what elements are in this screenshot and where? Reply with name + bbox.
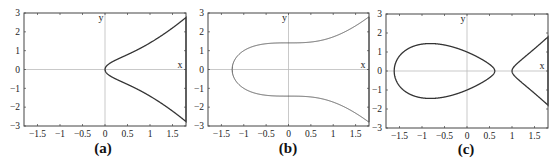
y-tick-label: 3 xyxy=(15,8,20,18)
x-axis-label: x xyxy=(178,59,183,70)
x-axis-label: x xyxy=(361,59,366,70)
y-tick-label: −3 xyxy=(372,123,382,133)
x-tick-label: −0.5 xyxy=(258,129,275,139)
y-tick-label: −2 xyxy=(194,102,204,112)
y-tick-label: 0 xyxy=(199,65,204,75)
y-tick-label: 3 xyxy=(199,8,204,18)
y-tick-label: −1 xyxy=(10,84,20,94)
x-tick-label: 1 xyxy=(510,131,515,141)
x-axis-label: x xyxy=(540,60,545,71)
y-tick-label: 2 xyxy=(15,27,20,37)
x-tick-label: −0.5 xyxy=(436,131,453,141)
x-tick-label: 1 xyxy=(331,129,336,139)
y-tick-label: 2 xyxy=(199,27,204,37)
y-tick-label: 3 xyxy=(377,9,382,19)
plot-panel-c: −1.5−1−0.500.511.5−3−2−10123xy xyxy=(372,9,548,141)
y-tick-label: −2 xyxy=(10,102,20,112)
y-tick-label: −3 xyxy=(194,121,204,131)
x-tick-label: −1.5 xyxy=(213,129,230,139)
x-tick-label: 0.5 xyxy=(484,131,496,141)
y-tick-label: −2 xyxy=(372,104,382,114)
y-axis-label: y xyxy=(99,12,104,23)
y-tick-label: 0 xyxy=(377,66,382,76)
caption-c: (c) xyxy=(436,141,496,158)
x-tick-label: 1.5 xyxy=(529,131,541,141)
x-tick-label: 0.5 xyxy=(305,129,317,139)
y-tick-label: −1 xyxy=(372,85,382,95)
y-tick-label: −3 xyxy=(10,121,20,131)
plot-panel-a: −1.5−1−0.500.511.5−3−2−10123xy xyxy=(10,8,186,139)
y-tick-label: −1 xyxy=(194,84,204,94)
y-tick-label: 1 xyxy=(199,46,204,56)
x-tick-label: 0 xyxy=(103,129,108,139)
x-tick-label: 1.5 xyxy=(167,129,179,139)
caption-a: (a) xyxy=(73,140,133,157)
plot-panel-b: −1.5−1−0.500.511.5−3−2−10123xy xyxy=(194,8,369,139)
x-tick-label: 0 xyxy=(465,131,470,141)
x-tick-label: −1 xyxy=(239,129,249,139)
y-tick-label: 2 xyxy=(377,28,382,38)
x-tick-label: 0 xyxy=(286,129,291,139)
y-tick-label: 1 xyxy=(15,46,20,56)
y-tick-label: 0 xyxy=(15,65,20,75)
x-tick-label: 1 xyxy=(148,129,153,139)
x-tick-label: −1.5 xyxy=(391,131,408,141)
y-tick-label: 1 xyxy=(377,47,382,57)
x-tick-label: −1.5 xyxy=(29,129,46,139)
x-tick-label: −1 xyxy=(417,131,427,141)
x-tick-label: −0.5 xyxy=(74,129,91,139)
x-tick-label: 1.5 xyxy=(350,129,362,139)
y-axis-label: y xyxy=(461,13,466,24)
x-tick-label: 0.5 xyxy=(122,129,134,139)
y-axis-label: y xyxy=(282,12,287,23)
caption-b: (b) xyxy=(258,140,318,157)
x-tick-label: −1 xyxy=(55,129,65,139)
